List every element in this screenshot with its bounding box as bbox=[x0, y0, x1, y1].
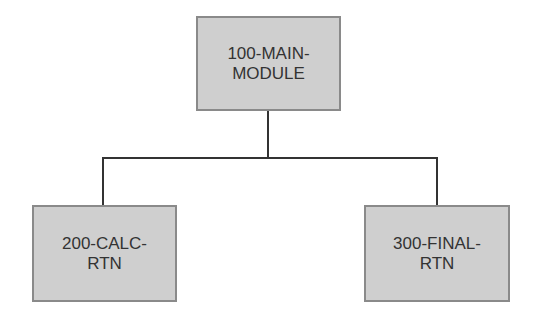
box-100-main-module: 100-MAIN- MODULE bbox=[196, 16, 341, 111]
box-label-line-1: 100-MAIN- bbox=[227, 44, 309, 64]
box-label-line-2: RTN bbox=[420, 254, 455, 274]
box-label-line-1: 200-CALC- bbox=[62, 234, 147, 254]
connector-horizontal bbox=[102, 157, 438, 159]
box-300-final-rtn: 300-FINAL- RTN bbox=[364, 205, 510, 302]
box-label-line-1: 300-FINAL- bbox=[393, 234, 481, 254]
connector-root-vertical bbox=[267, 111, 269, 159]
connector-right-vertical bbox=[436, 157, 438, 206]
box-label-line-2: RTN bbox=[87, 254, 122, 274]
box-200-calc-rtn: 200-CALC- RTN bbox=[32, 205, 177, 302]
box-label-line-2: MODULE bbox=[232, 64, 305, 84]
connector-left-vertical bbox=[102, 157, 104, 206]
